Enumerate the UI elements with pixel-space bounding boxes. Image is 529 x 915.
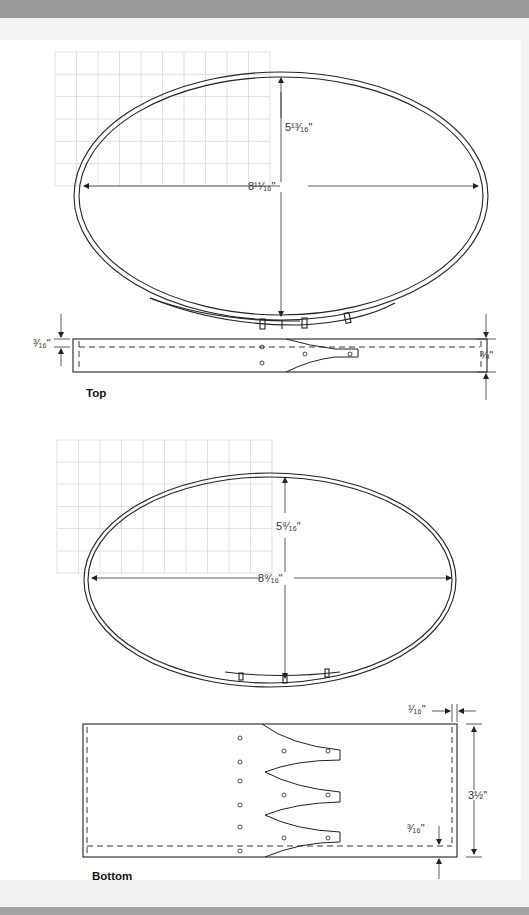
top-width-label: 5¹³⁄₁₆" [285, 121, 312, 133]
pattern-drawing: 8¹¹⁄₁₆" 5¹³⁄₁₆" ³⁄₁₆" [0, 0, 529, 915]
bottom-grid [57, 440, 272, 573]
bottom-edge-offset-label: ³⁄₁₆" [407, 822, 425, 834]
bottom-section: 8⁹⁄₁₆" 5⁹⁄₁₆" [57, 440, 487, 882]
bottom-height-label: 3½" [468, 789, 487, 801]
top-grid [55, 52, 270, 186]
bottom-width-label: 5⁹⁄₁₆" [276, 520, 301, 532]
bottom-end-offset-dimension [432, 704, 476, 722]
bottom-end-offset-label: ¹⁄₁₆" [408, 703, 426, 715]
top-band-view [73, 339, 487, 372]
top-edge-offset-label: ³⁄₁₆" [33, 337, 51, 349]
bottom-band-view [83, 724, 457, 857]
top-caption: Top [86, 387, 106, 399]
bottom-caption: Bottom [92, 870, 132, 882]
bottom-length-label: 8⁹⁄₁₆" [258, 572, 283, 584]
top-height-label: ¾" [480, 349, 493, 361]
top-length-label: 8¹¹⁄₁₆" [248, 180, 275, 192]
top-section: 8¹¹⁄₁₆" 5¹³⁄₁₆" ³⁄₁₆" [33, 52, 496, 400]
top-edge-offset-dimension [54, 314, 70, 366]
top-dimensions [84, 78, 478, 316]
